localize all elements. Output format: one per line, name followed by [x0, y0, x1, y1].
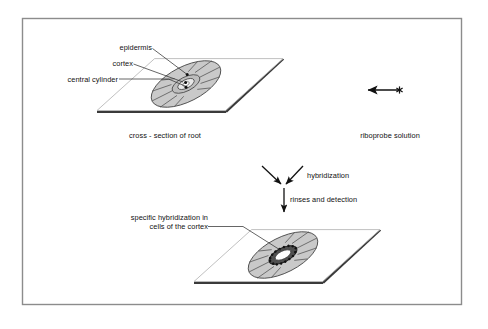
- label-central-cylinder: central cylinder: [28, 75, 118, 84]
- caption-cross-section-of-root: cross - section of root: [100, 131, 230, 140]
- label-specific-hybridization-line1: specific hybridization in: [92, 213, 208, 222]
- label-rinses-and-detection: rinses and detection: [290, 195, 420, 204]
- figure-root: epidermis cortex central cylinder cross …: [0, 0, 488, 329]
- label-hybridization: hybridization: [307, 171, 417, 180]
- label-specific-hybridization-line2: cells of the cortex: [92, 222, 208, 231]
- dot-central-cylinder: [185, 86, 188, 89]
- caption-riboprobe-solution: riboprobe solution: [330, 131, 450, 140]
- dot-epidermis: [186, 73, 189, 76]
- dot-cortex: [184, 81, 187, 84]
- label-epidermis: epidermis: [38, 43, 152, 52]
- label-cortex: cortex: [38, 59, 133, 68]
